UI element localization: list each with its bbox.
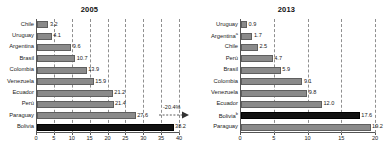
bar-value-label: 5.9: [281, 67, 290, 73]
bar-row[interactable]: Chile2.5: [241, 44, 375, 51]
category-label: Brasil: [20, 56, 35, 62]
chart-title-2005: 2005: [0, 5, 187, 14]
bar-row[interactable]: Bolivia38.2: [37, 124, 179, 131]
bar-value-label: 12.0: [322, 102, 334, 108]
bar[interactable]: [37, 21, 48, 28]
bar-value-label: 10.7: [75, 56, 87, 62]
bar-value-label: 9.1: [302, 79, 311, 85]
bar-row[interactable]: Uruguay0.9: [241, 21, 375, 28]
bar-row[interactable]: Brasil5.9: [241, 67, 375, 74]
bar[interactable]: [37, 78, 94, 85]
chart-title-2013: 2013: [189, 5, 384, 14]
bar-row[interactable]: Paraguay19.2: [241, 124, 375, 131]
plot-area-2013: Uruguay0.9Argentinaa1.7Chile2.5Perú4.7Br…: [240, 19, 375, 133]
chart-panel-2013: 2013 Uruguay0.9Argentinaa1.7Chile2.5Perú…: [195, 0, 390, 161]
bar-row[interactable]: Uruguay4.1: [37, 33, 179, 40]
x-tick-label: 10: [69, 136, 75, 142]
gridline: [375, 19, 376, 133]
x-tick-label: 0: [34, 136, 37, 142]
bar-row[interactable]: Argentinaa1.7: [241, 33, 375, 40]
bar[interactable]: [37, 67, 87, 74]
bar-value-label: 17.6: [360, 113, 372, 119]
x-tick-label: 15: [338, 136, 344, 142]
category-label: Ecuador: [216, 102, 238, 108]
category-label: Chile: [225, 45, 238, 51]
bar-value-label: 3.2: [48, 22, 57, 28]
bar-value-label: 4.7: [273, 56, 282, 62]
category-label: Ecuador: [12, 90, 34, 96]
bar-value-label: 19.2: [371, 124, 383, 130]
chart-panel-2005: 2005 Chile3.2Uruguay4.1Argentina9.6Brasi…: [0, 0, 195, 161]
bar-highlighted[interactable]: [37, 124, 174, 131]
bar-value-label: 2.5: [258, 45, 267, 51]
bar[interactable]: [37, 44, 71, 51]
bar-row[interactable]: Perú4.7: [241, 55, 375, 62]
category-label: Paraguay: [213, 124, 238, 130]
bar[interactable]: [241, 44, 258, 51]
bar-value-label: 27.6: [136, 113, 148, 119]
x-tick-label: 5: [272, 136, 275, 142]
x-tick-label: 0: [238, 136, 241, 142]
bar[interactable]: [241, 101, 322, 108]
bar-value-label: 38.2: [174, 124, 186, 130]
bar-highlighted[interactable]: [241, 112, 360, 119]
bar[interactable]: [241, 78, 302, 85]
bar-row[interactable]: Ecuador12.0: [241, 101, 375, 108]
category-label: Paraguay: [9, 113, 34, 119]
bar-value-label: 21.2: [113, 90, 125, 96]
bar[interactable]: [37, 90, 113, 97]
category-label: Colombia: [214, 79, 239, 85]
category-label: Chile: [21, 22, 34, 28]
bar-rows-right: Uruguay0.9Argentinaa1.7Chile2.5Perú4.7Br…: [241, 19, 375, 133]
x-tick-label: 25: [122, 136, 128, 142]
category-label: Boliviab: [219, 112, 238, 120]
category-label: Argentinaa: [211, 32, 238, 40]
bar-row[interactable]: Chile3.2: [37, 21, 179, 28]
category-label: Bolivia: [17, 124, 34, 130]
bar-row[interactable]: Brasil10.7: [37, 55, 179, 62]
x-tick-label: 20: [372, 136, 378, 142]
category-label: Venezuela: [211, 90, 238, 96]
bar-row[interactable]: Colombia9.1: [241, 78, 375, 85]
category-label: Perú: [22, 102, 34, 108]
dual-bar-chart-figure: 2005 Chile3.2Uruguay4.1Argentina9.6Brasi…: [0, 0, 390, 161]
bar[interactable]: [37, 101, 114, 108]
x-tick-label: 10: [304, 136, 310, 142]
category-label: Argentina: [9, 45, 34, 51]
bar[interactable]: [37, 55, 75, 62]
bar-value-label: 9.8: [307, 90, 316, 96]
bar[interactable]: [241, 33, 252, 40]
bar-row[interactable]: Ecuador21.2: [37, 90, 179, 97]
bar-row[interactable]: Argentina9.6: [37, 44, 179, 51]
bar[interactable]: [37, 112, 136, 119]
bar-row[interactable]: Boliviab17.6: [241, 112, 375, 119]
bar-row[interactable]: Perú21.4: [37, 101, 179, 108]
x-tick-label: 30: [140, 136, 146, 142]
category-label: Venezuela: [7, 79, 34, 85]
bar-row[interactable]: Colombia13.9: [37, 67, 179, 74]
bar-row[interactable]: Venezuela9.8: [241, 90, 375, 97]
bar[interactable]: [37, 33, 52, 40]
x-tick-label: 5: [52, 136, 55, 142]
x-axis-ticks-left: 0510152025303540: [36, 133, 179, 145]
bar[interactable]: [241, 124, 371, 131]
bar-value-label: 13.9: [87, 67, 99, 73]
x-axis-ticks-right: 05101520: [240, 133, 375, 145]
bar[interactable]: [241, 55, 273, 62]
bar-value-label: 1.7: [252, 33, 261, 39]
category-label: Uruguay: [216, 22, 238, 28]
footnote-marker: b: [236, 111, 238, 116]
bar[interactable]: [241, 90, 307, 97]
footnote-marker: a: [236, 31, 238, 36]
bar-value-label: 9.6: [71, 45, 80, 51]
category-label: Colombia: [10, 67, 35, 73]
bar-row[interactable]: Venezuela15.9: [37, 78, 179, 85]
bar[interactable]: [241, 67, 281, 74]
bar-value-label: 21.4: [114, 102, 126, 108]
x-tick-label: 15: [87, 136, 93, 142]
bar-value-label: 0.9: [247, 22, 256, 28]
category-label: Perú: [226, 56, 238, 62]
bar-value-label: 15.9: [94, 79, 106, 85]
category-label: Uruguay: [12, 33, 34, 39]
bar-value-label: 4.1: [52, 33, 61, 39]
